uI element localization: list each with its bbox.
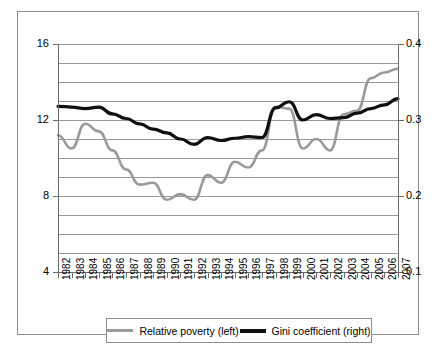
y-tick-right [399,44,404,45]
x-axis-label: 1994 [225,258,235,280]
x-axis-label: 2004 [361,258,371,280]
x-tick [208,273,209,278]
y-tick-left [53,196,58,197]
x-tick [276,273,277,278]
y-axis-left-label: 8 [23,190,49,200]
x-axis-label: 1984 [89,258,99,280]
x-tick [99,273,100,278]
x-tick [344,273,345,278]
x-axis-label: 1982 [62,258,72,280]
x-tick [262,273,263,278]
y-axis-left [58,44,59,273]
x-tick [72,273,73,278]
x-axis-label: 1996 [252,258,262,280]
x-axis-label: 1986 [116,258,126,280]
x-axis-label: 1989 [157,258,167,280]
x-axis-label: 1995 [239,258,249,280]
x-axis-label: 1987 [130,258,140,280]
x-axis-label: 1985 [103,258,113,280]
x-axis-label: 2005 [375,258,385,280]
x-tick [235,273,236,278]
y-tick-right [399,120,404,121]
x-tick [194,273,195,278]
y-axis-left-label: 16 [23,38,49,48]
x-axis-label: 1991 [184,258,194,280]
y-axis-right-label: 0.3 [406,114,436,124]
x-axis-label: 1993 [212,258,222,280]
x-axis-label: 1998 [280,258,290,280]
x-axis-label: 1983 [76,258,86,280]
x-tick [303,273,304,278]
x-axis-label: 2006 [388,258,398,280]
x-axis-label: 1988 [144,258,154,280]
y-axis-left-label: 12 [23,114,49,124]
y-tick-right [399,196,404,197]
x-tick [140,273,141,278]
x-axis-label: 2002 [334,258,344,280]
x-axis-label: 2007 [402,258,412,280]
x-tick [167,273,168,278]
y-tick-left [53,120,58,121]
x-axis-label: 2000 [307,258,317,280]
y-axis-right-label: 0.4 [406,38,436,48]
series-line-relative-poverty-left [58,69,398,200]
chart-frame: 481216 0.10.20.30.4 19821983198419851986… [17,11,419,335]
chart-legend: Relative poverty (left) Gini coefficient… [106,318,372,343]
plot-area [58,44,398,272]
x-axis-label: 1999 [293,258,303,280]
legend-item-gini-coefficient: Gini coefficient (right) [240,325,371,337]
x-axis-label: 1990 [171,258,181,280]
x-axis-label: 2003 [348,258,358,280]
x-axis-label: 1992 [198,258,208,280]
x-tick [58,273,59,278]
x-tick [398,273,399,278]
x-axis-label: 1997 [266,258,276,280]
x-axis-label: 2001 [320,258,330,280]
y-axis-left-label: 4 [23,266,49,276]
legend-label-gini-coefficient: Gini coefficient (right) [272,325,371,337]
y-tick-left [53,44,58,45]
legend-item-relative-poverty: Relative poverty (left) [107,325,238,337]
y-axis-right-label: 0.2 [406,190,436,200]
series-layer [58,44,398,272]
chart-figure: 481216 0.10.20.30.4 19821983198419851986… [0,0,436,350]
x-tick [126,273,127,278]
x-tick [330,273,331,278]
y-axis-right [398,44,399,273]
series-line-gini-coefficient-right [58,99,398,145]
legend-label-relative-poverty: Relative poverty (left) [139,325,238,337]
x-tick [371,273,372,278]
legend-swatch-gini-coefficient [240,329,266,333]
legend-swatch-relative-poverty [107,329,133,332]
